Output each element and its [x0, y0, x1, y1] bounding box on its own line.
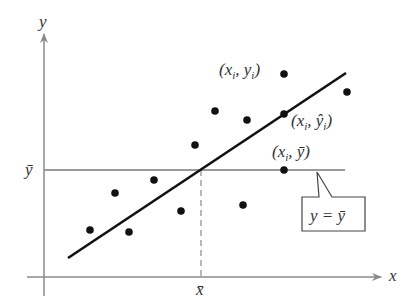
predicted-point-label: (xi, ŷi): [291, 111, 332, 132]
data-point: [211, 107, 219, 115]
data-point: [150, 176, 158, 184]
data-point: [177, 207, 185, 215]
data-point: [111, 189, 119, 197]
data-point: [125, 228, 133, 236]
mean-point-label: (xi, ȳ): [272, 142, 310, 163]
y-mean-label: ȳ: [23, 160, 33, 179]
callout-text: y = ȳ: [308, 206, 346, 225]
data-point: [343, 88, 351, 96]
mean-point: [280, 166, 288, 174]
y-axis-label: y: [37, 12, 47, 31]
data-point: [86, 226, 94, 234]
regression-diagram: y x ȳ x̄ (xi, yi) (xi, ŷi) (xi, ȳ) y = ȳ: [0, 0, 415, 304]
data-point: [191, 141, 199, 149]
data-point: [243, 116, 251, 124]
x-axis-label: x: [388, 266, 397, 285]
y-mean-callout: y = ȳ: [302, 172, 365, 231]
predicted-point: [280, 110, 288, 118]
data-point: [239, 201, 247, 209]
observed-point: [280, 70, 288, 78]
observed-point-label: (xi, yi): [219, 60, 260, 81]
x-mean-label: x̄: [195, 280, 204, 299]
